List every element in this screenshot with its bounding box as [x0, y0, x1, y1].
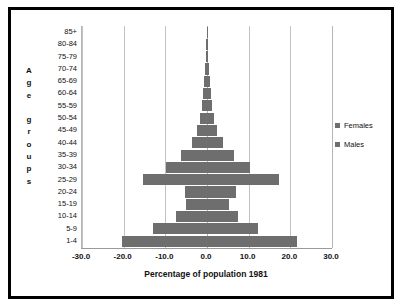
bar-row	[82, 100, 332, 112]
x-axis-tick-label: -10.0	[155, 252, 173, 261]
bar-females	[207, 125, 217, 136]
bar-row	[82, 87, 332, 99]
bar-males	[185, 186, 207, 197]
y-axis-tick-label: 30-34	[37, 161, 77, 173]
x-axis-title: Percentage of population 1981	[56, 269, 356, 279]
figure-frame: Agegroups 85+80-8475-7970-7465-6960-6455…	[8, 7, 394, 299]
bar-row	[82, 38, 332, 50]
y-axis-tick-label: 80-84	[37, 38, 77, 50]
bar-females	[207, 137, 223, 148]
bar-females	[207, 27, 208, 38]
bar-row	[82, 223, 332, 235]
bar-females	[207, 100, 212, 111]
bar-row	[82, 149, 332, 161]
y-axis-title-letter: g	[27, 77, 32, 89]
y-axis-title-letter: u	[27, 151, 32, 163]
y-axis-tick-label: 70-74	[37, 63, 77, 75]
figure-inner: Agegroups 85+80-8475-7970-7465-6960-6455…	[11, 10, 391, 296]
bar-row	[82, 174, 332, 186]
y-axis-title-letter: g	[27, 114, 32, 126]
y-axis-category-labels: 85+80-8475-7970-7465-6960-6455-5950-5445…	[37, 26, 77, 247]
y-axis-tick-label: 10-14	[37, 210, 77, 222]
bar-females	[207, 76, 210, 87]
x-axis-tick-label: 20.0	[282, 252, 298, 261]
bar-females	[207, 236, 297, 247]
gridline	[332, 26, 333, 248]
bar-males	[143, 174, 207, 185]
y-axis-tick-label: 35-39	[37, 149, 77, 161]
bar-females	[207, 39, 208, 50]
bar-females	[207, 88, 211, 99]
bar-row	[82, 51, 332, 63]
x-axis-tick-label: -20.0	[114, 252, 132, 261]
y-axis-title-letter: r	[27, 126, 30, 138]
x-axis-tick-labels: -30.0-20.0-10.00.010.020.030.0	[81, 252, 331, 264]
x-axis-tick-label: 30.0	[323, 252, 339, 261]
y-axis-tick-label: 5-9	[37, 223, 77, 235]
x-axis-tick-label: 0.0	[200, 252, 211, 261]
y-axis-title: Agegroups	[23, 65, 35, 188]
y-axis-tick-label: 75-79	[37, 51, 77, 63]
bar-row	[82, 124, 332, 136]
legend-label: Males	[344, 140, 364, 149]
bar-males	[122, 236, 207, 247]
bar-males	[192, 137, 207, 148]
bar-females	[207, 199, 229, 210]
y-axis-tick-label: 25-29	[37, 174, 77, 186]
bar-row	[82, 235, 332, 247]
bar-row	[82, 137, 332, 149]
bar-males	[166, 162, 207, 173]
bar-males	[176, 211, 207, 222]
plot-area	[81, 26, 332, 249]
bar-series-container	[82, 26, 332, 248]
bar-females	[207, 51, 208, 62]
legend-label: Females	[344, 121, 373, 130]
bar-row	[82, 63, 332, 75]
y-axis-tick-label: 55-59	[37, 100, 77, 112]
y-axis-title-letter: p	[27, 163, 32, 175]
y-axis-tick-label: 85+	[37, 26, 77, 38]
bar-females	[207, 150, 234, 161]
bar-row	[82, 75, 332, 87]
bar-males	[200, 113, 207, 124]
bar-row	[82, 186, 332, 198]
y-axis-title-letter: A	[26, 65, 32, 77]
y-axis-tick-label: 15-19	[37, 198, 77, 210]
bar-males	[153, 223, 207, 234]
bar-females	[207, 174, 279, 185]
bar-males	[197, 125, 207, 136]
bar-females	[207, 211, 238, 222]
bar-females	[207, 186, 236, 197]
y-axis-tick-label: 65-69	[37, 75, 77, 87]
y-axis-tick-label: 60-64	[37, 87, 77, 99]
x-axis-tick-label: 10.0	[240, 252, 256, 261]
y-axis-title-letter: s	[27, 176, 31, 188]
bar-females	[207, 223, 258, 234]
bar-row	[82, 210, 332, 222]
legend-item[interactable]: Males	[335, 140, 393, 149]
bar-row	[82, 112, 332, 124]
legend-swatch-icon	[335, 142, 340, 147]
bar-row	[82, 161, 332, 173]
x-axis-tick-label: -30.0	[72, 252, 90, 261]
bar-females	[207, 113, 214, 124]
bar-row	[82, 198, 332, 210]
bar-males	[186, 199, 207, 210]
y-axis-title-letter: e	[27, 90, 31, 102]
bar-females	[207, 63, 209, 74]
y-axis-tick-label: 45-49	[37, 124, 77, 136]
y-axis-tick-label: 1-4	[37, 235, 77, 247]
y-axis-tick-label: 40-44	[37, 137, 77, 149]
legend-swatch-icon	[335, 123, 340, 128]
bar-females	[207, 162, 250, 173]
chart-legend: FemalesMales	[335, 121, 393, 159]
bar-row	[82, 26, 332, 38]
y-axis-tick-label: 50-54	[37, 112, 77, 124]
y-axis-title-letter: o	[27, 139, 32, 151]
legend-item[interactable]: Females	[335, 121, 393, 130]
y-axis-tick-label: 20-24	[37, 186, 77, 198]
bar-males	[181, 150, 207, 161]
